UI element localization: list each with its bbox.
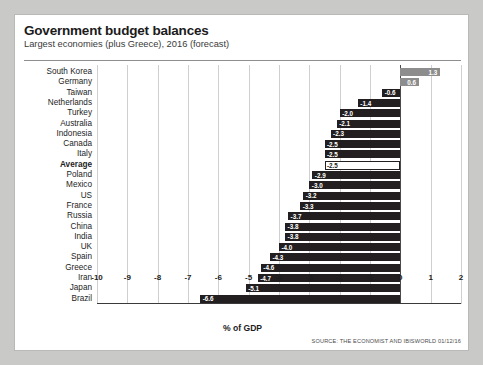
- zero-line: [400, 65, 401, 304]
- category-label: Indonesia: [56, 129, 92, 139]
- category-label: Canada: [63, 139, 92, 149]
- category-label: Japan: [70, 283, 92, 293]
- x-axis-label: % of GDP: [24, 323, 461, 333]
- category-label: Australia: [60, 119, 92, 129]
- page-title: Government budget balances: [24, 23, 461, 38]
- gridline: [249, 65, 250, 304]
- bar-value-label: -2.0: [342, 110, 353, 118]
- x-axis-line: [97, 303, 461, 304]
- bar: [285, 233, 400, 241]
- bar: [261, 264, 401, 272]
- bar: [279, 243, 400, 251]
- bar: [303, 192, 400, 200]
- category-label: Germany: [58, 77, 92, 87]
- bar: [288, 212, 400, 220]
- bar-value-label: -3.7: [291, 213, 302, 221]
- category-label: Greece: [65, 263, 92, 273]
- bar: [200, 295, 400, 303]
- category-label: Russia: [67, 211, 92, 221]
- gridline: [127, 65, 128, 304]
- title-divider: [24, 60, 461, 61]
- page-subtitle: Largest economies (plus Greece), 2016 (f…: [24, 39, 461, 50]
- category-axis-labels: South KoreaGermanyTaiwanNetherlandsTurke…: [24, 65, 96, 313]
- bar-value-label: -0.6: [385, 89, 396, 97]
- x-tick-label: -9: [124, 273, 131, 283]
- gridline: [431, 65, 432, 304]
- bar: [270, 253, 400, 261]
- category-label: Brazil: [72, 294, 92, 304]
- bar-value-label: -2.5: [327, 141, 338, 149]
- x-tick-label: -5: [245, 273, 252, 283]
- category-label: India: [74, 232, 92, 242]
- x-tick-label: -6: [215, 273, 222, 283]
- category-label: Taiwan: [67, 88, 93, 98]
- gridline: [218, 65, 219, 304]
- bar-value-label: -3.0: [312, 182, 323, 190]
- category-label: Iran: [78, 273, 92, 283]
- bar-value-label: -3.3: [303, 203, 314, 211]
- bar-value-label: 0.6: [407, 79, 416, 87]
- chart-panel: Government budget balances Largest econo…: [14, 14, 469, 351]
- bar-value-label: -2.9: [315, 172, 326, 180]
- x-tick-label: -1: [366, 273, 373, 283]
- bar-value-label: -2.1: [339, 120, 350, 128]
- gridline: [97, 65, 98, 304]
- source-note: SOURCE: THE ECONOMIST AND IBISWORLD 01/1…: [312, 338, 461, 344]
- category-label: Mexico: [66, 180, 92, 190]
- x-tick-label: -10: [91, 273, 103, 283]
- bar-value-label: -3.2: [306, 192, 317, 200]
- bar-value-label: -3.8: [288, 223, 299, 231]
- gridline: [461, 65, 462, 304]
- x-tick-label: 0: [398, 273, 402, 283]
- chart-inner: Government budget balances Largest econo…: [24, 23, 461, 344]
- gridline: [188, 65, 189, 304]
- category-label: Turkey: [67, 108, 92, 118]
- bar-value-label: -2.3: [333, 130, 344, 138]
- x-tick-label: -8: [154, 273, 161, 283]
- category-label: France: [67, 201, 92, 211]
- gridline: [158, 65, 159, 304]
- x-tick-label: -4: [275, 273, 282, 283]
- x-tick-label: -2: [336, 273, 343, 283]
- category-label: UK: [81, 242, 92, 252]
- category-label: Spain: [71, 252, 92, 262]
- x-axis-ticks: -10-9-8-7-6-5-4-3-2-1012: [97, 273, 461, 287]
- bar: [285, 223, 400, 231]
- bar-value-label: -1.4: [360, 100, 371, 108]
- category-label: South Korea: [46, 67, 92, 77]
- x-tick-label: -7: [184, 273, 191, 283]
- bar-value-label: -2.5: [327, 162, 338, 170]
- category-label: US: [81, 191, 92, 201]
- bar-value-label: -6.6: [203, 295, 214, 303]
- bar-value-label: -4.6: [263, 264, 274, 272]
- bar-value-label: -3.8: [288, 233, 299, 241]
- category-label: Average: [60, 160, 92, 170]
- x-tick-label: 1: [428, 273, 432, 283]
- x-tick-label: 2: [459, 273, 463, 283]
- bar-value-label: -4.3: [272, 254, 283, 262]
- x-tick-label: -3: [306, 273, 313, 283]
- category-label: China: [71, 222, 92, 232]
- category-label: Poland: [67, 170, 93, 180]
- bar-value-label: 1.3: [429, 69, 438, 77]
- category-label: Netherlands: [48, 98, 92, 108]
- category-label: Italy: [77, 149, 92, 159]
- bar-value-label: -2.5: [327, 151, 338, 159]
- bar: [300, 202, 400, 210]
- bar-value-label: -4.0: [282, 244, 293, 252]
